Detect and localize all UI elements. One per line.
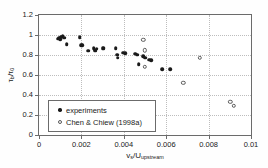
x-axis-tick-label: 0 xyxy=(37,141,41,149)
gridline-vertical xyxy=(209,15,210,135)
data-point-filled xyxy=(143,56,147,60)
y-axis-tick xyxy=(35,115,39,116)
y-axis-tick-label: 0.4 xyxy=(23,91,33,99)
y-axis-tick-label: 0.8 xyxy=(23,51,33,59)
scatter-chart-figure: τb/τ0 vs/Uupstream 00.20.40.60.811.200.0… xyxy=(0,0,268,168)
data-point-filled xyxy=(86,49,90,53)
y-axis-tick-label: 0.6 xyxy=(23,71,33,79)
data-point-open xyxy=(141,38,145,42)
gridline-horizontal xyxy=(39,75,251,76)
filled-circle-marker-icon xyxy=(54,108,66,111)
chart-legend: experiments Chen & Chiew (1998a) xyxy=(48,100,156,132)
x-axis-tick xyxy=(81,135,82,139)
data-point-filled xyxy=(81,43,85,47)
data-point-filled xyxy=(169,67,173,71)
data-point-filled xyxy=(137,62,141,66)
data-point-filled xyxy=(65,42,69,46)
y-axis-tick-label: 0.2 xyxy=(23,111,33,119)
data-point-filled xyxy=(78,35,82,39)
legend-item-experiments: experiments xyxy=(54,104,151,116)
data-point-filled xyxy=(116,56,120,60)
x-axis-tick-label: 0.008 xyxy=(199,141,218,149)
gridline-vertical xyxy=(166,15,167,135)
y-axis-tick xyxy=(35,95,39,96)
legend-label: Chen & Chiew (1998a) xyxy=(66,118,142,127)
data-point-filled xyxy=(95,47,99,51)
gridline-horizontal xyxy=(39,95,251,96)
x-axis-tick-label: 0.002 xyxy=(72,141,91,149)
open-circle-marker-icon xyxy=(54,120,66,124)
data-point-filled xyxy=(102,47,106,51)
data-point-open xyxy=(231,103,235,107)
data-point-open xyxy=(197,55,201,59)
data-point-filled xyxy=(62,36,66,40)
x-axis-tick xyxy=(124,135,125,139)
y-axis-tick xyxy=(35,15,39,16)
x-axis-tick xyxy=(251,135,252,139)
x-axis-title: vs/Uupstream xyxy=(126,152,163,161)
data-point-filled xyxy=(135,53,139,57)
y-axis-tick-label: 1 xyxy=(29,31,33,39)
y-axis-title: τb/τ0 xyxy=(7,68,16,83)
y-axis-tick-label: 0 xyxy=(29,131,33,139)
data-point-open xyxy=(143,64,147,68)
x-axis-tick xyxy=(166,135,167,139)
data-point-open xyxy=(181,81,185,85)
y-axis-tick-label: 1.2 xyxy=(23,11,33,19)
data-point-filled xyxy=(114,46,118,50)
gridline-horizontal xyxy=(39,35,251,36)
y-axis-tick xyxy=(35,55,39,56)
data-point-filled xyxy=(124,51,128,55)
data-point-open xyxy=(142,48,146,52)
x-axis-tick-label: 0.004 xyxy=(114,141,133,149)
x-axis-tick xyxy=(39,135,40,139)
data-point-filled xyxy=(150,58,154,62)
x-axis-tick-label: 0.006 xyxy=(157,141,176,149)
y-axis-tick xyxy=(35,75,39,76)
x-axis-tick xyxy=(209,135,210,139)
legend-label: experiments xyxy=(66,106,107,115)
legend-item-chen-chiew: Chen & Chiew (1998a) xyxy=(54,116,151,128)
y-axis-tick xyxy=(35,35,39,36)
x-axis-tick-label: 0.01 xyxy=(244,141,259,149)
data-point-filled xyxy=(160,67,164,71)
